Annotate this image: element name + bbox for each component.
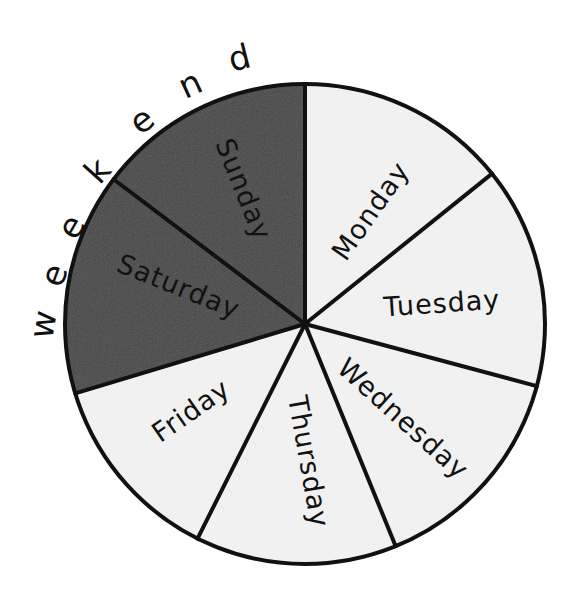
weekend-letter: e (31, 258, 76, 291)
pie-chart: MondayTuesdayWednesdayThursdayFridaySatu… (0, 0, 585, 615)
weekend-letter: n (172, 61, 208, 106)
weekend-letter: w (20, 307, 64, 341)
weekend-letter: d (224, 36, 255, 80)
